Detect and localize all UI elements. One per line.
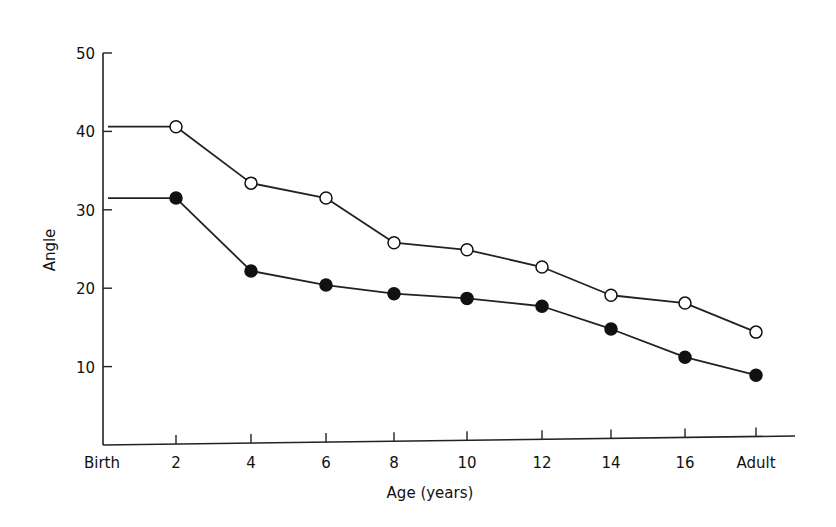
filled-circle-marker	[679, 351, 691, 363]
open-circle-marker	[679, 297, 691, 309]
series-lines	[108, 127, 756, 376]
series-segment	[394, 294, 467, 299]
series-segment	[542, 306, 611, 329]
series-segment	[467, 298, 542, 306]
series-segment	[611, 329, 685, 357]
y-tick-label: 20	[76, 280, 95, 298]
filled-circle-marker	[245, 265, 257, 277]
open-circle-marker	[750, 326, 762, 338]
filled-circle-marker	[605, 323, 617, 335]
x-tick-label: Birth	[84, 454, 120, 472]
open-circle-marker	[245, 177, 257, 189]
x-tick-label: 4	[246, 454, 256, 472]
series-segment	[176, 127, 251, 183]
series-segment	[251, 271, 326, 285]
open-circle-marker	[170, 121, 182, 133]
series-segment	[326, 285, 394, 294]
filled-circle-marker	[388, 288, 400, 300]
open-circle-marker	[320, 192, 332, 204]
series-segment	[542, 267, 611, 295]
y-tick-label: 30	[76, 202, 95, 220]
x-tick-label: 6	[321, 454, 331, 472]
y-tick-label: 50	[76, 45, 95, 63]
x-tick-label: 14	[601, 454, 620, 472]
open-circle-marker	[605, 289, 617, 301]
filled-circle-marker	[536, 300, 548, 312]
series-points	[170, 121, 762, 382]
x-axis-title: Age (years)	[387, 484, 474, 502]
series-segment	[176, 198, 251, 271]
y-tick-label: 10	[76, 359, 95, 377]
x-tick-label: 12	[532, 454, 551, 472]
series-segment	[685, 357, 756, 375]
axes	[103, 53, 795, 445]
open-circle-marker	[536, 261, 548, 273]
line-chart: 1020304050Birth246810121416Adult Age (ye…	[0, 0, 836, 527]
x-tick-label: Adult	[736, 454, 775, 472]
series-segment	[467, 250, 542, 267]
series-segment	[251, 183, 326, 198]
y-axis-title: Angle	[41, 229, 59, 272]
x-tick-label: 8	[389, 454, 399, 472]
x-tick-label: 2	[171, 454, 181, 472]
series-segment	[394, 243, 467, 250]
x-tick-label: 10	[457, 454, 476, 472]
filled-circle-marker	[320, 279, 332, 291]
open-circle-marker	[461, 244, 473, 256]
series-segment	[685, 303, 756, 332]
filled-circle-marker	[750, 369, 762, 381]
filled-circle-marker	[170, 192, 182, 204]
filled-circle-marker	[461, 292, 473, 304]
series-segment	[326, 198, 394, 243]
x-tick-label: 16	[675, 454, 694, 472]
x-axis-line	[103, 436, 795, 445]
y-tick-label: 40	[76, 123, 95, 141]
series-segment	[611, 295, 685, 303]
open-circle-marker	[388, 237, 400, 249]
axis-labels: 1020304050Birth246810121416Adult	[76, 45, 776, 472]
